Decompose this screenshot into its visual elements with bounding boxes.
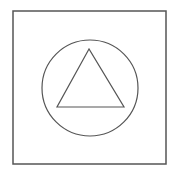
- circle-shape: [42, 40, 138, 136]
- triangle-shape: [57, 49, 124, 107]
- diagram-canvas: [0, 0, 178, 173]
- square-frame: [13, 11, 166, 164]
